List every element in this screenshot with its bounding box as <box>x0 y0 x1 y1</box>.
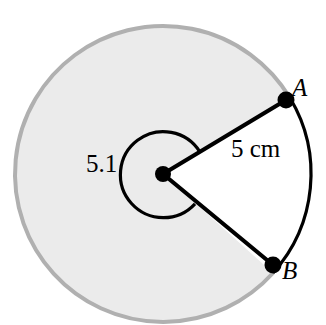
point-a-label: A <box>292 74 307 102</box>
circle-sector-figure: 5.1 5 cm A B <box>0 0 326 325</box>
point-b-label: B <box>282 257 297 285</box>
point-b-dot <box>265 257 282 274</box>
radius-label: 5 cm <box>231 135 280 163</box>
reflex-angle-label: 5.1 <box>86 150 117 178</box>
centre-point-dot <box>155 166 171 182</box>
